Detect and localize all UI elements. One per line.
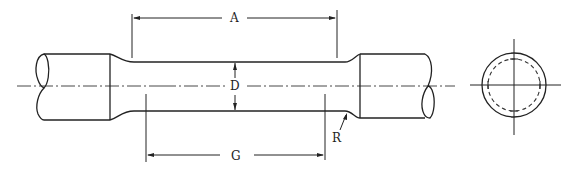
fillet-top-left xyxy=(110,54,134,62)
dimension-a: A xyxy=(132,10,337,58)
specimen-drawing: A D G R xyxy=(0,0,579,172)
fillet-bottom-right xyxy=(345,111,360,118)
label-a: A xyxy=(229,11,239,25)
dimension-r: R xyxy=(332,113,347,145)
end-view xyxy=(470,39,561,135)
dimension-d: D xyxy=(230,63,240,110)
side-view: A D G R xyxy=(17,10,455,163)
label-r: R xyxy=(332,131,342,145)
break-symbol-left xyxy=(36,54,49,88)
label-g: G xyxy=(231,149,241,163)
fillet-top-right xyxy=(345,54,360,62)
fillet-bottom-left xyxy=(110,111,134,120)
left-grip xyxy=(36,54,110,120)
label-d: D xyxy=(230,79,240,93)
